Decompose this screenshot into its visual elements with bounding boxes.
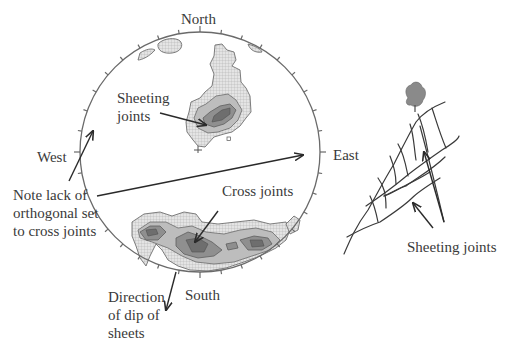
label-sheeting-joints-2: joints xyxy=(116,108,151,124)
stereonet xyxy=(74,26,326,278)
label-south: South xyxy=(185,287,221,303)
label-dip-3: sheets xyxy=(108,325,145,341)
label-dip-2: of dip of xyxy=(108,307,160,323)
sheeting-joints-cluster xyxy=(186,44,251,153)
tree-icon xyxy=(406,82,426,112)
label-cross-joints: Cross joints xyxy=(222,183,293,199)
label-west: West xyxy=(37,149,67,165)
label-north: North xyxy=(181,11,216,27)
label-note-2: orthogonal set xyxy=(13,205,99,221)
label-note-1: Note lack of xyxy=(13,187,87,203)
stereonet-figure: North South East West Sheeting joints Cr… xyxy=(0,0,507,351)
label-dip-1: Direction xyxy=(108,289,165,305)
sketch-pointer-1 xyxy=(413,203,433,228)
cross-joints-cluster xyxy=(132,212,300,271)
label-east: East xyxy=(333,147,360,163)
north-margin-patches xyxy=(138,39,262,60)
sheeting-joints-sketch xyxy=(344,82,459,254)
label-note-3: to cross joints xyxy=(13,223,96,239)
dip-direction-arrow xyxy=(166,272,176,310)
label-sheeting-joints-1: Sheeting xyxy=(117,90,170,106)
label-sheeting-joints-sketch: Sheeting joints xyxy=(407,239,497,255)
